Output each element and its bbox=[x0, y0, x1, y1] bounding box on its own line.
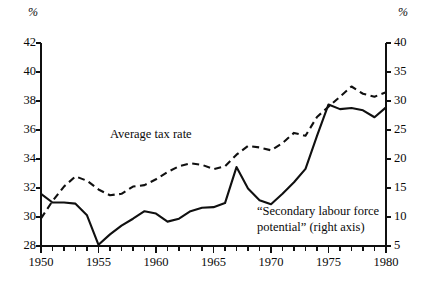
right-axis-tick-label: 15 bbox=[394, 181, 407, 194]
x-axis-tick-label: 1960 bbox=[138, 256, 174, 269]
left-axis-tick-label: 42 bbox=[12, 36, 36, 49]
left-axis-tick-label: 28 bbox=[12, 239, 36, 252]
x-axis-tick-label: 1955 bbox=[81, 256, 117, 269]
x-axis-tick-label: 1965 bbox=[196, 256, 232, 269]
left-axis-tick-label: 32 bbox=[12, 181, 36, 194]
left-axis-tick-label: 38 bbox=[12, 94, 36, 107]
right-axis-tick-label: 30 bbox=[394, 94, 407, 107]
left-axis-unit-label: % bbox=[28, 6, 38, 18]
series-label-secondary-line1: “Secondary labour force bbox=[257, 205, 379, 218]
right-axis-tick-label: 5 bbox=[394, 239, 400, 252]
right-axis-unit-label: % bbox=[398, 6, 408, 18]
x-axis-tick-label: 1980 bbox=[368, 256, 404, 269]
figure-container: % % Average tax rate “Secondary labour f… bbox=[0, 0, 425, 281]
right-axis-tick-label: 40 bbox=[394, 36, 407, 49]
series-label-secondary-line2: potential” (right axis) bbox=[257, 221, 365, 234]
left-axis-tick-label: 36 bbox=[12, 123, 36, 136]
right-axis-tick-label: 20 bbox=[394, 152, 407, 165]
x-axis-tick-label: 1970 bbox=[253, 256, 289, 269]
left-axis-tick-label: 40 bbox=[12, 65, 36, 78]
line-chart-plot bbox=[0, 0, 425, 281]
right-axis-tick-label: 35 bbox=[394, 65, 407, 78]
right-axis-tick-label: 10 bbox=[394, 210, 407, 223]
left-axis-tick-label: 30 bbox=[12, 210, 36, 223]
right-axis-tick-label: 25 bbox=[394, 123, 407, 136]
series-label-average-tax-rate: Average tax rate bbox=[110, 128, 192, 141]
x-axis-tick-label: 1950 bbox=[23, 256, 59, 269]
left-axis-tick-label: 34 bbox=[12, 152, 36, 165]
x-axis-tick-label: 1975 bbox=[311, 256, 347, 269]
